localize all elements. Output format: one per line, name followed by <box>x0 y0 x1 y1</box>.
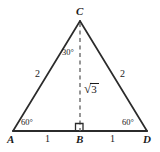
radical-radicand: 3 <box>90 83 99 95</box>
radical-group: √3 <box>84 82 99 95</box>
triangle-figure-svg <box>0 0 160 152</box>
altitude-label-sqrt3: √3 <box>84 82 99 95</box>
base-label-right-half: 1 <box>110 134 115 144</box>
geometry-diagram: C A B D 30° 60° 60° 2 2 √3 1 1 <box>0 0 160 152</box>
vertex-label-b: B <box>76 134 83 145</box>
vertex-label-c: C <box>76 6 83 17</box>
side-label-right-leg: 2 <box>120 69 125 79</box>
vertex-label-d: D <box>143 134 151 145</box>
side-label-left-leg: 2 <box>35 69 40 79</box>
angle-label-left-60: 60° <box>21 118 33 127</box>
base-label-left-half: 1 <box>45 134 50 144</box>
side-left-leg-line <box>13 21 80 131</box>
vertex-label-a: A <box>7 134 14 145</box>
right-angle-marker-icon <box>76 124 84 132</box>
angle-label-apex-30: 30° <box>62 48 74 57</box>
angle-label-right-60: 60° <box>122 118 134 127</box>
side-right-leg-line <box>80 21 147 131</box>
